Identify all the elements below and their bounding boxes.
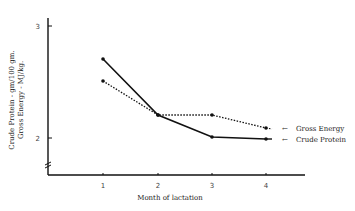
y-axis-label-line2: Gross Energy - MJ/kg. [17, 61, 25, 139]
crude-protein-line [103, 59, 266, 139]
y-tick-label-3: 3 [36, 23, 40, 31]
legend-arrow-icon-ge: ← [282, 125, 288, 133]
x-tick-label-3: 3 [210, 182, 214, 190]
x-axis-label: Month of lactation [137, 194, 203, 202]
legend-gross-energy: Gross Energy [296, 125, 344, 133]
x-tick-label-4: 4 [264, 182, 269, 190]
x-tick-label-2: 2 [156, 182, 160, 190]
legend-crude-protein: Crude Protein [296, 136, 347, 144]
x-tick-label-1: 1 [101, 182, 105, 190]
y-axis-label-line1: Crude Protein - gm/100 gm. [8, 50, 16, 149]
gross-energy-line [103, 81, 266, 128]
chart: 3 2 1 2 3 4 Month of lactation Crude Pro… [0, 0, 355, 211]
crude-protein-markers [101, 57, 268, 141]
y-tick-label-2: 2 [36, 135, 40, 143]
legend-arrow-icon-cp: ← [282, 136, 288, 144]
